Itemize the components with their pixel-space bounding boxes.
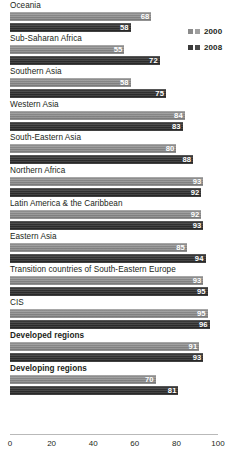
bar-track-2008: 94: [10, 254, 218, 263]
bar-value-label: 96: [199, 320, 208, 329]
bar-group: Southern Asia5875: [0, 66, 243, 99]
category-label: Developed regions: [10, 330, 84, 341]
axis-tick-label: 60: [130, 438, 139, 449]
bar-value-label: 93: [193, 221, 202, 230]
bar-value-label: 92: [191, 188, 200, 197]
bar-track-2000: 91: [10, 342, 218, 351]
bar-2000[interactable]: 93: [10, 177, 203, 186]
category-label: Latin America & the Caribbean: [10, 198, 123, 209]
bar-2008[interactable]: 75: [10, 89, 166, 98]
bar-group: South-Eastern Asia8088: [0, 132, 243, 165]
bar-track-2008: 75: [10, 89, 218, 98]
bar-2008[interactable]: 58: [10, 23, 131, 32]
bar-2008[interactable]: 88: [10, 155, 193, 164]
bar-track-2000: 92: [10, 210, 218, 219]
bar-track-2008: 95: [10, 287, 218, 296]
bar-2000[interactable]: 80: [10, 144, 176, 153]
bar-2000[interactable]: 68: [10, 12, 151, 21]
bar-2000[interactable]: 95: [10, 309, 208, 318]
bar-2008[interactable]: 83: [10, 122, 183, 131]
bar-chart: 2000 2008 Oceania6858Sub-Saharan Africa5…: [0, 0, 243, 457]
axis-tick-label: 80: [172, 438, 181, 449]
bar-value-label: 93: [193, 177, 202, 186]
bar-value-label: 88: [182, 155, 191, 164]
category-label: Western Asia: [10, 99, 59, 110]
bar-value-label: 68: [141, 12, 150, 21]
category-label: Eastern Asia: [10, 231, 57, 242]
bar-2008[interactable]: 94: [10, 254, 206, 263]
category-label: Sub-Saharan Africa: [10, 33, 82, 44]
category-label: Developing regions: [10, 363, 87, 374]
bar-2008[interactable]: 93: [10, 353, 203, 362]
bar-track-2000: 80: [10, 144, 218, 153]
bar-track-2000: 95: [10, 309, 218, 318]
bar-track-2008: 88: [10, 155, 218, 164]
bar-2000[interactable]: 92: [10, 210, 201, 219]
bar-value-label: 58: [120, 78, 129, 87]
bar-2008[interactable]: 72: [10, 56, 160, 65]
bar-track-2008: 96: [10, 320, 218, 329]
bar-2000[interactable]: 55: [10, 45, 124, 54]
bar-value-label: 94: [195, 254, 204, 263]
bar-2000[interactable]: 85: [10, 243, 187, 252]
plot-area: Oceania6858Sub-Saharan Africa5572Souther…: [0, 0, 243, 396]
bar-value-label: 92: [191, 210, 200, 219]
category-label: Transition countries of South-Eastern Eu…: [10, 264, 176, 275]
bar-2008[interactable]: 81: [10, 386, 178, 395]
bar-value-label: 95: [197, 287, 206, 296]
bar-2008[interactable]: 96: [10, 320, 210, 329]
bar-track-2008: 93: [10, 221, 218, 230]
bar-value-label: 91: [189, 342, 198, 351]
bar-2000[interactable]: 58: [10, 78, 131, 87]
category-label: CIS: [10, 297, 24, 308]
bar-track-2000: 68: [10, 12, 218, 21]
bar-track-2008: 81: [10, 386, 218, 395]
bar-2000[interactable]: 84: [10, 111, 185, 120]
bar-group: Northern Africa9392: [0, 165, 243, 198]
bar-track-2000: 58: [10, 78, 218, 87]
bar-track-2008: 92: [10, 188, 218, 197]
bar-group: Developing regions7081: [0, 363, 243, 396]
axis-tick-label: 100: [211, 438, 224, 449]
bar-2000[interactable]: 70: [10, 375, 156, 384]
bar-track-2000: 85: [10, 243, 218, 252]
bar-track-2000: 93: [10, 177, 218, 186]
bar-track-2000: 93: [10, 276, 218, 285]
bar-value-label: 58: [120, 23, 129, 32]
bar-group: Latin America & the Caribbean9293: [0, 198, 243, 231]
axis-tick-label: 0: [8, 438, 12, 449]
category-label: South-Eastern Asia: [10, 132, 81, 143]
bar-group: Oceania6858: [0, 0, 243, 33]
category-label: Southern Asia: [10, 66, 62, 77]
bar-2000[interactable]: 93: [10, 276, 203, 285]
bar-track-2000: 55: [10, 45, 218, 54]
bar-value-label: 55: [114, 45, 123, 54]
bar-group: Transition countries of South-Eastern Eu…: [0, 264, 243, 297]
bar-group: Eastern Asia8594: [0, 231, 243, 264]
bar-group: Sub-Saharan Africa5572: [0, 33, 243, 66]
bar-track-2008: 72: [10, 56, 218, 65]
bar-2000[interactable]: 91: [10, 342, 199, 351]
bar-2008[interactable]: 92: [10, 188, 201, 197]
bar-2008[interactable]: 95: [10, 287, 208, 296]
bar-value-label: 95: [197, 309, 206, 318]
bar-group: CIS9596: [0, 297, 243, 330]
axis-tick-label: 40: [89, 438, 98, 449]
category-label: Northern Africa: [10, 165, 65, 176]
bar-value-label: 93: [193, 353, 202, 362]
bar-value-label: 83: [172, 122, 181, 131]
bar-value-label: 84: [174, 111, 183, 120]
x-axis-line: [10, 434, 218, 435]
bar-track-2000: 70: [10, 375, 218, 384]
axis-tick-label: 20: [47, 438, 56, 449]
bar-track-2008: 58: [10, 23, 218, 32]
bar-value-label: 75: [155, 89, 164, 98]
bar-2008[interactable]: 93: [10, 221, 203, 230]
x-axis-tick-labels: 020406080100: [0, 438, 243, 452]
bar-value-label: 70: [145, 375, 154, 384]
bar-value-label: 72: [149, 56, 158, 65]
bar-track-2008: 83: [10, 122, 218, 131]
bar-value-label: 80: [166, 144, 175, 153]
category-label: Oceania: [10, 0, 41, 11]
bar-value-label: 85: [176, 243, 185, 252]
